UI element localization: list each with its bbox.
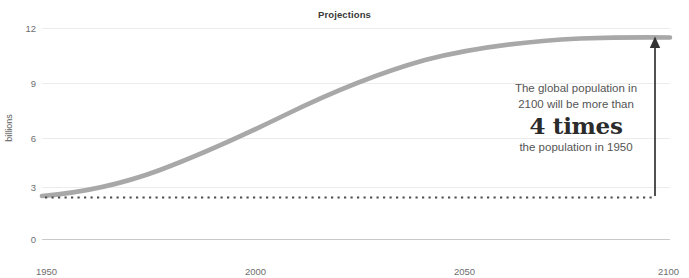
x-tick-label-2100: 2100 bbox=[658, 266, 679, 277]
x-tick-label-2000: 2000 bbox=[245, 266, 266, 277]
gridline-12 bbox=[42, 28, 670, 29]
annotation-emphasis: 4 times bbox=[505, 113, 647, 138]
annotation-callout: The global population in 2100 will be mo… bbox=[505, 80, 647, 155]
axis-baseline bbox=[42, 239, 670, 240]
y-tick-label-9: 9 bbox=[14, 78, 36, 89]
gridline-3 bbox=[42, 187, 670, 188]
annotation-line-2: 2100 will be more than bbox=[505, 96, 647, 112]
annotation-line-1: The global population in bbox=[505, 80, 647, 96]
y-axis-tick-labels: 12 9 6 3 0 bbox=[14, 0, 36, 278]
y-tick-label-0: 0 bbox=[14, 234, 36, 245]
projections-chart: Projections billions 12 9 6 3 0 1950 200… bbox=[0, 0, 689, 278]
y-axis-title: billions bbox=[4, 105, 14, 151]
y-tick-label-3: 3 bbox=[14, 182, 36, 193]
x-tick-label-2050: 2050 bbox=[454, 266, 475, 277]
y-tick-label-6: 6 bbox=[14, 133, 36, 144]
annotation-line-3: the population in 1950 bbox=[505, 139, 647, 155]
x-tick-label-1950: 1950 bbox=[36, 266, 57, 277]
chart-title: Projections bbox=[0, 9, 689, 20]
y-tick-label-12: 12 bbox=[14, 23, 36, 34]
